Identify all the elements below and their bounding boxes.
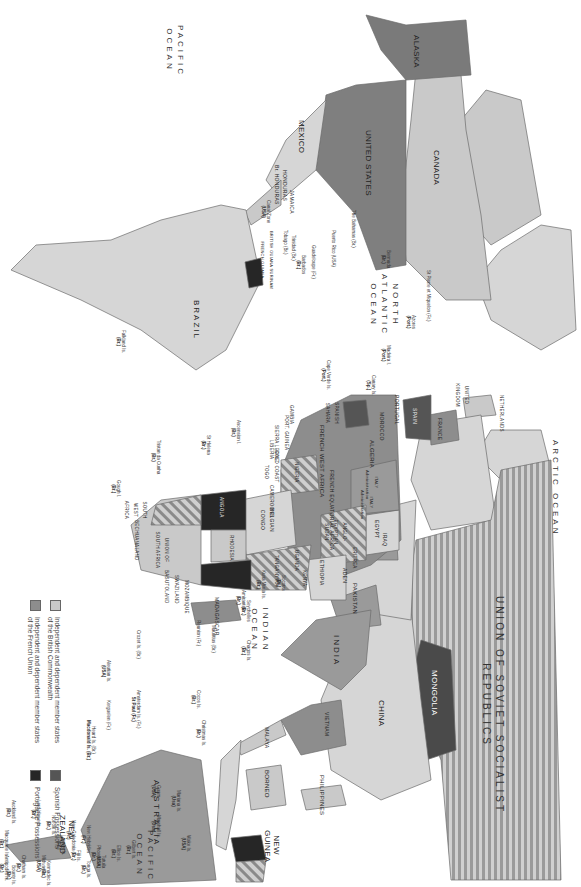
ocean-label-arctic: ARCTIC OCEAN — [550, 440, 561, 536]
island-label-mauritius: Mauritius (Br.) — [211, 625, 216, 653]
country-label-gambia: GAMBIA — [287, 405, 296, 424]
island-label-amirantes: Amirantes(Br.) — [236, 590, 246, 610]
island-label-wake: Wake Is.(USA) — [181, 835, 191, 852]
island-label-madeira: Madeira I.(Port.) — [381, 345, 391, 365]
island-label-guadeloupe: Guadeloupe (Fr.) — [311, 245, 316, 279]
country-label-swaziland: SWAZILAND — [172, 575, 181, 604]
country-label-sierra-leone: SIERRA LEONE — [272, 425, 281, 462]
new-guinea-dutch — [231, 835, 266, 862]
island-label-ascension: Ascension I.(Br.) — [231, 420, 241, 445]
island-label-bahamas: The Bahamas (Br.) — [351, 210, 356, 248]
country-label-algeria: ALGERIA — [367, 440, 376, 468]
island-label-lord-howe: Lord Howe Is.(Br.) — [31, 800, 41, 828]
country-label-borneo: BORNEO — [262, 770, 271, 798]
island-label-fiji: Fiji Is.(Br.) — [71, 850, 81, 862]
island-label-socotra: Socotra(Br.) — [276, 575, 286, 591]
island-label-tonga: Tonga Is.(Br.) — [81, 860, 91, 878]
country-label-uganda: UGANDA — [292, 550, 301, 571]
island-label-new-hebrides: New Hebrides(Fr.) — [81, 825, 91, 853]
country-label-portugal: PORTUGAL — [392, 395, 401, 425]
france — [429, 410, 459, 445]
ocean-label-pacific-west: PACIFIC OCEAN — [164, 25, 186, 75]
new-guinea-au — [236, 860, 266, 882]
mozambique — [196, 560, 251, 590]
country-label-philippines: PHILIPPINES — [317, 775, 326, 815]
country-label-ussr: UNION OF SOVIET SOCIALIST REPUBLICS — [480, 590, 506, 820]
country-label-nigeria: NIGERIA — [292, 462, 301, 483]
country-label-spanish-sahara: SPANISH SAHARA — [323, 398, 341, 428]
country-label-rhodesia: RHODESIA — [227, 535, 236, 561]
island-label-gough: Gough I.(Br.) — [111, 480, 121, 497]
island-label-antipodes: Antipodes Is.(Br.) — [0, 855, 9, 881]
island-label-gilbert: Gilbert Is.(Br.) — [126, 840, 136, 859]
island-label-st-pierre: St Pierre et Miquelon (Fr.) — [426, 270, 431, 322]
country-label-pakistan: PAKISTAN — [350, 583, 359, 614]
country-label-angola: ANGOLA — [217, 497, 226, 518]
country-label-togo: TOGO — [262, 465, 271, 479]
island-label-azores: Azores(Port.) — [406, 315, 416, 329]
island-label-ellice: Ellice Is.(Br.) — [111, 845, 121, 862]
country-label-china: CHINA — [377, 700, 386, 726]
country-label-morocco: MOROCCO — [377, 412, 386, 441]
country-label-french-equatorial-africa: FRENCH EQUATORIAL AFRICA — [327, 470, 336, 550]
island-label-macquarie: Macquarie Is.(Br.) — [0, 830, 9, 857]
country-label-spain: SPAIN — [410, 408, 419, 424]
country-label-iraq: IRAQ — [380, 533, 389, 546]
island-label-falkland: Falkland Is.(Br.) — [116, 330, 126, 353]
ocean-label-indian: INDIAN OCEAN — [249, 600, 271, 660]
country-label-union-of-south-africa: UNION OF SOUTH AFRICA — [153, 530, 171, 570]
island-label-reunion: Reunion (Fr.) — [196, 620, 201, 646]
country-label-libya-fezzan: ITALY Administration — [358, 490, 376, 515]
malaya — [236, 720, 286, 755]
country-label-jamaica: JAMAICA — [287, 190, 296, 214]
country-label-basutoland: BASUTOLAND — [162, 570, 171, 603]
country-label-france: FRANCE — [435, 418, 444, 440]
country-label-alaska: ALASKA — [412, 35, 421, 68]
country-label-kenya: KENYA — [300, 570, 309, 586]
island-label-crozet: Crozet Is. (Br.) — [136, 630, 141, 659]
country-label-canada: CANADA — [432, 150, 441, 185]
island-label-loyalty: Loyalty Is.(Fr.) — [56, 835, 66, 855]
country-label-eritrea: ERITREA — [350, 547, 359, 569]
island-label-guam: Guam(USA) — [151, 785, 161, 798]
indonesia — [216, 740, 241, 850]
island-label-trinidad: Trinidad (Br.) — [291, 235, 296, 261]
south-america — [11, 205, 261, 370]
island-label-heard: Heard Is. (Br.)Macdonald Is. (Br.) — [86, 720, 96, 760]
island-label-chagos: Chagos Is.(Br.) — [241, 640, 251, 662]
country-label-united-kingdom: UNITED KINGDOM — [453, 380, 471, 410]
island-label-barbados: Barbados(Br.) — [296, 255, 306, 274]
country-label-vietnam: VIETNAM — [322, 712, 331, 736]
island-label-kuria-muria: Kuria Muria Is.(Br.) — [256, 570, 266, 599]
island-label-puerto-rico: Puerto Rico (USA) — [331, 230, 336, 267]
island-label-cape-verde: Cape Verde Is.(Port.) — [321, 360, 331, 390]
island-label-phoenix: Phoenix Is.(Br.) — [91, 845, 101, 867]
island-label-bermuda: Bermuda(Br.) — [381, 250, 391, 268]
indochina — [281, 700, 346, 755]
country-label-egypt: EGYPT — [372, 520, 381, 538]
country-label-mozambique: MOZAMBIQUE — [182, 580, 191, 614]
island-label-christmas: Christmas Is.(Br.) — [196, 720, 206, 746]
country-label-bechuanaland: BECHUANALAND — [132, 520, 141, 561]
country-label-french-west-africa: FRENCH WEST AFRICA — [317, 425, 326, 498]
island-label-new-caledonia: New Caledonia(Fr.) — [66, 820, 76, 851]
island-label-marianas: Mariana Is.(Usa) — [171, 790, 181, 812]
united-states — [316, 80, 406, 270]
country-label-mexico: MEXICO — [297, 120, 306, 153]
island-label-canary: Canary Is.(Sp.) — [366, 375, 376, 396]
island-label-canal-zone: Canal Zone(USA) — [261, 200, 271, 223]
island-label-auckland: Auckland Is.(Br.) — [6, 800, 16, 825]
country-label-guianas: BRITISH GUIANA SURINAM FRENCH GUIANA — [258, 230, 276, 290]
country-label-cameroons: CAMEROONS — [267, 485, 276, 517]
island-label-tobago: Tobago (Br.) — [283, 230, 288, 255]
island-label-cocos: Cocos Is.(Br.) — [191, 690, 201, 709]
island-label-marshall: Marshall Is.(Usa) — [151, 815, 161, 838]
country-label-mongolia: MONGOLIA — [430, 670, 439, 716]
island-label-tristan: Tristan da Cunha(Br.) — [151, 440, 161, 474]
spanish-sahara — [343, 400, 369, 428]
island-label-aleutian: Aleutian Is.(USA) — [101, 660, 111, 682]
ocean-label-north-atlantic: NORTH ATLANTIC OCEAN — [368, 270, 401, 340]
country-label-malaya: MALAYA — [262, 727, 271, 748]
